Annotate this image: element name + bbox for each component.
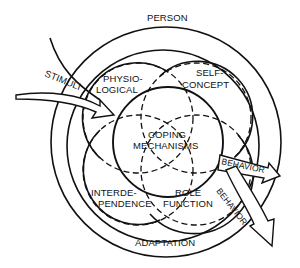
coping-label-line2: MECHANISMS: [133, 140, 198, 151]
self-concept-label-line2: CONCEPT: [182, 79, 229, 90]
adaptation-label: ADAPTATION: [135, 237, 195, 248]
physiological-label-line2: LOGICAL: [96, 84, 138, 95]
interdependence-label-line1: INTERDE-: [91, 187, 137, 198]
interdependence-label-line2: PENDENCE: [98, 198, 152, 209]
role-function-label-line1: ROLE: [175, 187, 201, 198]
role-function-label-line2: FUNCTION: [163, 198, 213, 209]
physiological-label-line1: PHYSIO-: [103, 73, 143, 84]
adaptation-model-diagram: PERSON ADAPTATION STIMULI PHYSIO- LOGICA…: [0, 0, 300, 268]
person-label: PERSON: [147, 12, 188, 23]
stimuli-label: STIMULI: [43, 68, 83, 93]
stimuli-line-upper: [50, 38, 100, 100]
self-concept-label-line1: SELF-: [196, 67, 223, 78]
coping-label-line1: COPING: [148, 129, 186, 140]
stimuli-arrow: [16, 93, 114, 118]
